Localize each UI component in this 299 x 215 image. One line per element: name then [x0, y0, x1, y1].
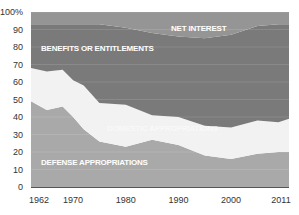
y-tick-label: 30: [13, 130, 23, 140]
x-tick-label: 1962: [29, 195, 49, 205]
x-tick-label: 2000: [221, 195, 241, 205]
y-tick-label: 40: [13, 112, 23, 122]
stacked-area-chart: 0102030405060708090100% 1962197019801990…: [0, 0, 299, 215]
x-tick-label: 1980: [116, 195, 136, 205]
x-tick-label: 1970: [63, 195, 83, 205]
y-tick-label: 0: [18, 182, 23, 192]
y-tick-label: 60: [13, 77, 23, 87]
label-net-interest: NET INTEREST: [171, 24, 227, 33]
y-tick-label: 70: [13, 60, 23, 70]
x-tick-label: 1990: [168, 195, 188, 205]
y-tick-label: 10: [13, 165, 23, 175]
label-benefits: BENEFITS OR ENTITLEMENTS: [41, 44, 154, 53]
y-tick-label: 80: [13, 42, 23, 52]
x-tick-label: 2011: [271, 195, 290, 205]
y-axis-ticks: 0102030405060708090100%: [0, 7, 23, 192]
y-tick-label: 50: [13, 95, 23, 105]
y-tick-label: 20: [13, 147, 23, 157]
y-tick-label: 90: [13, 25, 23, 35]
label-domestic: DOMESTIC APPROPRIATIONS: [107, 124, 219, 133]
label-defense: DEFENSE APPROPRIATIONS: [41, 158, 149, 167]
x-axis-ticks: 196219701980199020002011: [29, 195, 291, 205]
y-tick-label: 100%: [0, 7, 23, 17]
